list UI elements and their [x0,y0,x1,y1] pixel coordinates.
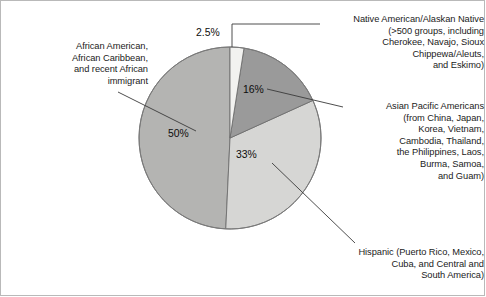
asian-pacific-label: Asian Pacific Americans (from China, Jap… [330,101,484,182]
slice-value-native-american: 2.5% [196,27,220,38]
slice-value-hispanic: 33% [236,149,257,160]
native-american-label: Native American/Alaskan Native (>500 gro… [252,14,484,72]
slice-value-african-american: 50% [168,128,189,139]
pie-chart-figure: 2.5% 16% 33% 50% Native American/Alaskan… [0,0,486,297]
african-american-label: African American, African Caribbean, and… [8,41,148,87]
hispanic-label: Hispanic (Puerto Rico, Mexico, Cuba, and… [296,247,484,282]
slice-value-asian-pacific: 16% [243,84,264,95]
